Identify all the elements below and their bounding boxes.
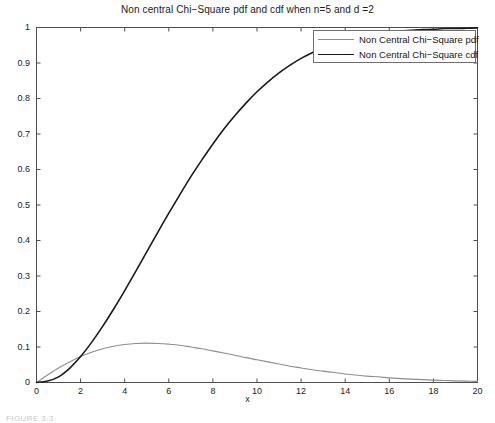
figure-container: Non central Chi−Square pdf and cdf when …: [0, 0, 495, 423]
y-tick-label: 1: [0, 23, 30, 32]
figure-caption: FIGURE 3.3: [6, 414, 54, 423]
y-tick-label: 0.5: [0, 201, 30, 210]
legend-label-pdf: Non Central Chi−Square pdf: [359, 34, 479, 45]
legend-item-cdf: Non Central Chi−Square cdf: [314, 47, 475, 63]
y-tick-label: 0.7: [0, 130, 30, 139]
legend-swatch-pdf: [318, 39, 354, 40]
y-tick-label: 0.4: [0, 236, 30, 245]
y-tick-label: 0.1: [0, 343, 30, 352]
chart-plot-area: [0, 0, 495, 423]
y-tick-label: 0.3: [0, 272, 30, 281]
legend-item-pdf: Non Central Chi−Square pdf: [314, 32, 475, 48]
legend-label-cdf: Non Central Chi−Square cdf: [359, 49, 478, 60]
axes-frame: [37, 28, 478, 383]
y-tick-label: 0.9: [0, 59, 30, 68]
y-tick-label: 0.8: [0, 94, 30, 103]
chart-title: Non central Chi−Square pdf and cdf when …: [0, 4, 495, 15]
y-tick-label: 0.2: [0, 307, 30, 316]
y-tick-label: 0.6: [0, 165, 30, 174]
data-series-group: [37, 28, 478, 383]
chart-legend: Non Central Chi−Square pdf Non Central C…: [313, 30, 476, 63]
legend-swatch-cdf: [318, 54, 354, 55]
x-axis-label: x: [0, 394, 495, 404]
